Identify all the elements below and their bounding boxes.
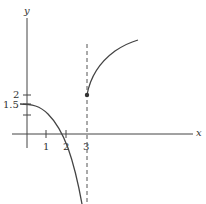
left-branch-curve — [20, 104, 82, 204]
y-tick-label-1.5: 1.5 — [3, 99, 19, 110]
function-graph: y x 2 1.5 1 2 3 — [0, 0, 206, 204]
filled-point-3-2 — [85, 93, 89, 97]
x-tick-label-3: 3 — [83, 141, 89, 152]
y-axis-label: y — [23, 5, 30, 16]
x-axis-label: x — [196, 127, 202, 138]
x-tick-label-1: 1 — [43, 141, 49, 152]
right-branch-curve — [87, 40, 138, 95]
